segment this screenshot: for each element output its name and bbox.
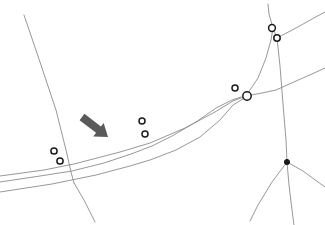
road-network-figure xyxy=(0,0,325,225)
node-topright-upper[interactable] xyxy=(269,25,276,32)
node-center-upper[interactable] xyxy=(139,118,145,124)
node-left-lower[interactable] xyxy=(57,158,63,164)
node-center-lower[interactable] xyxy=(142,131,148,137)
node-right-junction[interactable] xyxy=(243,92,251,100)
map-canvas xyxy=(0,0,325,225)
node-topright-lower[interactable] xyxy=(274,35,280,41)
node-right-small[interactable] xyxy=(232,85,238,91)
node-left-upper[interactable] xyxy=(51,148,57,154)
figure-background xyxy=(0,0,325,225)
node-bottomright-filled[interactable] xyxy=(284,159,289,164)
